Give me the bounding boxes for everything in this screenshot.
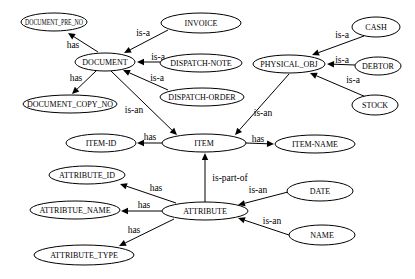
- edge-document-to-item: is-an: [111, 71, 177, 135]
- edge-label: is-a: [346, 75, 361, 85]
- node-document-copy-no[interactable]: DOCUMENT_COPY_NO: [23, 95, 117, 113]
- node-label: DISPATCH-NOTE: [170, 59, 232, 68]
- edge-label: is-an: [249, 185, 268, 195]
- arrow-head-icon: [121, 208, 128, 214]
- node-label: ITEM: [194, 139, 214, 148]
- edge-document-to-document-pre-no: has: [67, 33, 98, 52]
- node-label: INVOICE: [185, 19, 218, 28]
- edge-label: has: [144, 132, 157, 142]
- node-label: STOCK: [362, 101, 388, 110]
- node-attribute-id[interactable]: ATTRIBUTE_ID: [49, 166, 125, 184]
- edge-label: is-an: [263, 216, 282, 226]
- node-label: DOCUMENT: [82, 58, 127, 67]
- edge-label: is-a: [335, 55, 350, 65]
- edge-document-to-document-copy-no: has: [70, 71, 96, 94]
- edge-label: has: [67, 40, 80, 50]
- node-attribute-type[interactable]: ATTRIBUTE_TYPE: [34, 245, 134, 265]
- edge-label: has: [138, 200, 151, 210]
- node-label: DATE: [310, 187, 331, 196]
- node-dispatch-note[interactable]: DISPATCH-NOTE: [160, 54, 242, 72]
- node-stock[interactable]: STOCK: [352, 95, 398, 115]
- arrow-head-icon: [327, 61, 334, 67]
- node-cash[interactable]: CASH: [352, 17, 400, 37]
- arrow-head-icon: [120, 183, 128, 189]
- node-invoice[interactable]: INVOICE: [161, 13, 241, 33]
- node-label: ATTRIBUTE: [183, 207, 227, 216]
- node-label: ITEM-ID: [86, 139, 117, 148]
- edge-attribute-to-attribute-type: has: [119, 219, 174, 246]
- node-dispatch-order[interactable]: DISPATCH-ORDER: [160, 88, 244, 106]
- er-diagram: hashasis-ais-ais-ais-anis-ais-ais-ais-an…: [0, 0, 415, 279]
- edge-label: has: [252, 134, 265, 144]
- node-debtor[interactable]: DEBTOR: [355, 57, 401, 75]
- edge-name-to-attribute: is-an: [238, 216, 289, 235]
- node-label: DOCUMENT_COPY_NO: [27, 100, 113, 109]
- edge-stock-to-physical-obj: is-a: [310, 73, 366, 97]
- node-attribtue-name[interactable]: ATTRIBTUE_NAME: [30, 201, 120, 219]
- edge-label: is-an: [254, 108, 273, 118]
- nodes-layer: DOCUMENT_PRE_NOINVOICEDOCUMENTDISPATCH-N…: [21, 13, 401, 265]
- node-label: ATTRIBTUE_NAME: [39, 206, 110, 215]
- edge-label: is-a: [335, 30, 350, 40]
- edge-label: has: [150, 183, 163, 193]
- arrow-head-icon: [68, 33, 76, 39]
- edge-label: is-a: [136, 28, 151, 38]
- edge-line: [240, 74, 289, 130]
- edge-cash-to-physical-obj: is-a: [312, 30, 364, 56]
- edge-label: has: [70, 73, 83, 83]
- node-label: ATTRIBUTE_TYPE: [50, 251, 118, 260]
- arrow-head-icon: [238, 217, 246, 223]
- node-item-name[interactable]: ITEM-NAME: [275, 135, 355, 153]
- node-name[interactable]: NAME: [289, 225, 355, 245]
- node-document-pre-no[interactable]: DOCUMENT_PRE_NO: [21, 13, 87, 31]
- arrow-head-icon: [137, 59, 144, 65]
- edge-physical-obj-to-item: is-an: [235, 74, 289, 135]
- node-label: CASH: [365, 23, 387, 32]
- edge-date-to-attribute: is-an: [238, 185, 288, 206]
- edge-attribute-to-item: is-part-of: [202, 153, 249, 202]
- arrow-head-icon: [312, 50, 320, 56]
- node-label: DOCUMENT_PRE_NO: [25, 18, 83, 27]
- edge-attribute-to-attribtue-name: has: [121, 200, 162, 214]
- edge-label: is-an: [125, 105, 144, 115]
- edge-item-to-item-id: has: [137, 132, 162, 146]
- node-date[interactable]: DATE: [287, 181, 353, 201]
- edge-debtor-to-physical-obj: is-a: [327, 55, 355, 67]
- node-label: ITEM-NAME: [292, 140, 338, 149]
- node-label: ATTRIBUTE_ID: [59, 171, 115, 180]
- arrow-head-icon: [267, 141, 274, 147]
- edge-label: is-part-of: [212, 173, 248, 183]
- node-item-id[interactable]: ITEM-ID: [66, 134, 136, 152]
- edge-dispatch-order-to-document: is-a: [123, 70, 168, 90]
- node-attribute[interactable]: ATTRIBUTE: [162, 202, 248, 220]
- node-item[interactable]: ITEM: [162, 134, 246, 152]
- node-label: PHYSICAL_OBJ: [260, 60, 317, 69]
- node-label: NAME: [310, 231, 334, 240]
- node-label: DEBTOR: [362, 62, 395, 71]
- edge-label: is-a: [150, 73, 165, 83]
- edge-item-to-item-name: has: [246, 134, 274, 147]
- node-label: DISPATCH-ORDER: [168, 93, 236, 102]
- arrow-head-icon: [202, 153, 208, 160]
- node-document[interactable]: DOCUMENT: [75, 53, 135, 71]
- edge-invoice-to-document: is-a: [124, 28, 168, 53]
- node-physical-obj[interactable]: PHYSICAL_OBJ: [253, 55, 325, 73]
- edge-label: has: [128, 225, 141, 235]
